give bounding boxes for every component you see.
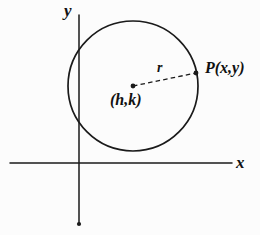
radius-label: r <box>157 61 162 75</box>
radius-dashed-line <box>133 73 196 86</box>
y-axis-terminal-dot <box>77 222 81 226</box>
y-axis-label: y <box>64 2 72 19</box>
figure-canvas <box>0 0 260 235</box>
point-p-label: P(x,y) <box>205 60 245 76</box>
p-point-dot <box>194 71 199 76</box>
circle-center-label: (h,k) <box>110 92 142 108</box>
center-point-dot <box>131 84 136 89</box>
circle-geometry-figure: y x P(x,y) (h,k) r <box>0 0 260 235</box>
x-axis-label: x <box>236 154 245 171</box>
